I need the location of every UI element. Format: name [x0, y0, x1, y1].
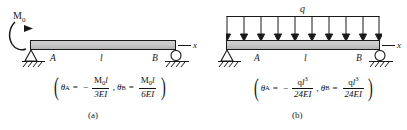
- panel-a: M0 x: [0, 0, 203, 130]
- beam-deflection-figure: M0 x: [0, 0, 407, 130]
- rotation-formula-a: ( θA = − M0l 3EI , θB = M0l 6EI ): [52, 76, 167, 99]
- x-axis-line: [178, 45, 191, 46]
- x-axis-label: x: [397, 41, 401, 50]
- denominator-theta-b: 24EI: [343, 88, 365, 99]
- rotation-formula-b: ( θA = − ql3 24EI , θB = ql3 24EI ): [252, 76, 375, 99]
- equals-sign-a: =: [273, 83, 278, 93]
- fraction-theta-b: M0l 6EI: [139, 76, 157, 99]
- fraction-theta-a: ql3 24EI: [292, 76, 314, 99]
- pin-support-icon: [218, 50, 244, 72]
- span-length-label: l: [100, 53, 103, 63]
- comma-a: ,: [113, 82, 115, 92]
- theta-a-subscript: A: [65, 84, 70, 91]
- minus-sign-a: −: [283, 83, 288, 93]
- fraction-theta-a: M0l 3EI: [92, 76, 110, 99]
- roller-support-icon: [163, 50, 191, 72]
- comma-b: ,: [316, 83, 318, 93]
- beam-element: [226, 40, 380, 50]
- roller-support-icon: [367, 50, 395, 72]
- node-label-a: A: [254, 53, 260, 63]
- theta-a-subscript: A: [265, 84, 270, 91]
- denominator-theta-a: 24EI: [292, 88, 314, 99]
- panel-caption-a: (a): [88, 110, 98, 120]
- span-length-label: l: [304, 53, 307, 63]
- equals-sign-b: =: [332, 83, 337, 93]
- equals-sign-a: =: [73, 82, 78, 92]
- node-label-b: B: [356, 53, 362, 63]
- pin-support-icon: [22, 50, 48, 72]
- panel-caption-b: (b): [292, 110, 303, 120]
- numerator-theta-b: M0l: [139, 76, 157, 88]
- distributed-load-label: q: [300, 3, 305, 14]
- beam-element: [30, 40, 176, 50]
- theta-b-subscript: B: [325, 84, 329, 91]
- numerator-theta-a: M0l: [92, 76, 110, 88]
- numerator-theta-a: ql3: [296, 76, 310, 88]
- denominator-theta-a: 3EI: [92, 88, 109, 99]
- minus-sign-a: −: [83, 82, 88, 92]
- numerator-theta-b: ql3: [346, 76, 360, 88]
- node-label-a: A: [50, 53, 56, 63]
- denominator-theta-b: 6EI: [139, 88, 156, 99]
- fraction-theta-b: ql3 24EI: [343, 76, 365, 99]
- x-axis-line: [382, 45, 395, 46]
- x-axis-label: x: [193, 41, 197, 50]
- panel-b: q x: [204, 0, 407, 130]
- node-label-b: B: [152, 53, 158, 63]
- theta-b-subscript: B: [121, 84, 125, 91]
- equals-sign-b: =: [129, 82, 134, 92]
